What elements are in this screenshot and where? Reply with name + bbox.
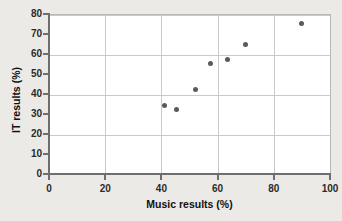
x-tick-label: 20 — [90, 183, 120, 194]
gridline-vertical — [105, 15, 106, 175]
gridline-horizontal — [49, 95, 330, 96]
y-tick-mark — [43, 113, 49, 115]
x-tick-label: 60 — [203, 183, 233, 194]
x-axis-line — [48, 173, 331, 175]
y-tick-mark — [43, 153, 49, 155]
x-tick-mark — [48, 174, 50, 180]
x-axis-title: Music results (%) — [49, 198, 330, 210]
plot-area — [49, 14, 331, 175]
data-point — [299, 21, 304, 26]
data-point — [243, 42, 248, 47]
x-tick-mark — [104, 174, 106, 180]
scatter-chart: 01020304050607080 020406080100 Music res… — [0, 0, 342, 221]
y-tick-mark — [43, 93, 49, 95]
data-point — [225, 57, 230, 62]
gridline-vertical — [274, 15, 275, 175]
x-tick-mark — [273, 174, 275, 180]
y-tick-label: 0 — [14, 169, 42, 179]
data-point — [162, 103, 167, 108]
x-tick-label: 0 — [34, 183, 64, 194]
data-point — [208, 61, 213, 66]
x-tick-mark — [160, 174, 162, 180]
y-tick-label: 70 — [14, 29, 42, 39]
x-tick-label: 80 — [259, 183, 289, 194]
y-tick-mark — [43, 73, 49, 75]
gridline-horizontal — [49, 15, 330, 16]
y-tick-label: 80 — [14, 9, 42, 19]
data-point — [193, 87, 198, 92]
gridline-vertical — [161, 15, 162, 175]
y-tick-mark — [43, 53, 49, 55]
y-tick-mark — [43, 133, 49, 135]
y-axis-title: IT results (%) — [10, 40, 22, 160]
y-tick-mark — [43, 33, 49, 35]
x-tick-label: 100 — [315, 183, 342, 194]
x-tick-mark — [217, 174, 219, 180]
x-tick-label: 40 — [146, 183, 176, 194]
gridline-vertical — [218, 15, 219, 175]
gridline-horizontal — [49, 55, 330, 56]
x-tick-mark — [329, 174, 331, 180]
gridline-horizontal — [49, 135, 330, 136]
data-point — [174, 107, 179, 112]
y-tick-mark — [43, 13, 49, 15]
